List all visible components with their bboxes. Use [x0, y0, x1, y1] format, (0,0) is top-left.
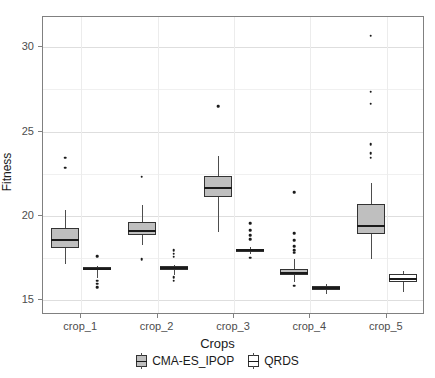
legend-key-icon — [136, 355, 147, 367]
gridline-x-crop_4 — [310, 17, 311, 313]
outlier-point — [293, 245, 296, 248]
legend-item-QRDS[interactable]: QRDS — [248, 354, 299, 368]
gridline-x-crop_5 — [387, 17, 388, 313]
x-axis-label: Crops — [0, 336, 435, 351]
x-tick-mark-crop_2 — [157, 314, 158, 318]
outlier-point — [96, 286, 99, 289]
legend-item-CMA-ES_IPOP[interactable]: CMA-ES_IPOP — [136, 354, 234, 368]
outlier-point — [96, 255, 99, 258]
outlier-point — [249, 222, 252, 225]
gridline-y-30 — [43, 47, 423, 48]
outlier-point — [249, 229, 252, 232]
outlier-point — [249, 238, 252, 241]
outlier-point — [172, 252, 175, 255]
legend-label: CMA-ES_IPOP — [152, 354, 234, 368]
outlier-point — [249, 234, 252, 237]
outlier-point — [172, 249, 175, 252]
y-tick-label-30: 30 — [8, 40, 34, 52]
outlier-point — [370, 152, 373, 155]
x-tick-label-crop_5: crop_5 — [369, 320, 403, 332]
box-median — [280, 272, 308, 274]
outlier-point — [64, 156, 67, 159]
outlier-point — [293, 232, 296, 235]
x-tick-mark-crop_1 — [80, 314, 81, 318]
box-median — [236, 249, 264, 251]
x-tick-label-crop_1: crop_1 — [63, 320, 97, 332]
y-tick-mark-30 — [38, 46, 42, 47]
box-median — [128, 230, 156, 232]
gridline-y-minor — [43, 174, 423, 175]
outlier-point — [370, 143, 373, 146]
plot-panel — [42, 16, 424, 314]
box-CMA-ES_IPOP-crop_5 — [357, 204, 385, 234]
outlier-point — [96, 279, 99, 282]
box-median — [389, 278, 417, 280]
box-CMA-ES_IPOP-crop_2 — [128, 222, 156, 235]
box-median — [160, 267, 188, 269]
x-tick-label-crop_3: crop_3 — [216, 320, 250, 332]
gridline-y-15 — [43, 300, 423, 301]
outlier-point — [293, 251, 296, 254]
x-tick-mark-crop_5 — [386, 314, 387, 318]
chart-root: 15202530crop_1crop_2crop_3crop_4crop_5 F… — [0, 0, 435, 378]
outlier-point — [370, 34, 373, 37]
outlier-point — [140, 258, 143, 261]
outlier-point — [249, 257, 252, 260]
box-median — [204, 187, 232, 189]
box-median — [357, 225, 385, 227]
gridline-y-25 — [43, 132, 423, 133]
y-tick-label-25: 25 — [8, 125, 34, 137]
x-tick-label-crop_4: crop_4 — [293, 320, 327, 332]
x-tick-label-crop_2: crop_2 — [140, 320, 174, 332]
outlier-point — [217, 105, 220, 108]
outlier-point — [293, 284, 296, 287]
legend-label: QRDS — [264, 354, 299, 368]
box-median — [312, 287, 340, 289]
y-tick-mark-20 — [38, 215, 42, 216]
outlier-point — [370, 91, 373, 94]
y-tick-label-20: 20 — [8, 209, 34, 221]
outlier-point — [140, 176, 143, 179]
outlier-point — [172, 279, 175, 282]
outlier-point — [172, 256, 175, 259]
box-median — [51, 239, 79, 241]
y-tick-mark-25 — [38, 131, 42, 132]
x-tick-mark-crop_3 — [233, 314, 234, 318]
x-tick-mark-crop_4 — [309, 314, 310, 318]
outlier-point — [293, 191, 296, 194]
y-tick-label-15: 15 — [8, 293, 34, 305]
gridline-x-crop_3 — [234, 17, 235, 313]
outlier-point — [64, 166, 67, 169]
gridline-y-minor — [43, 89, 423, 90]
outlier-point — [293, 239, 296, 242]
chart-legend: CMA-ES_IPOPQRDS — [0, 354, 435, 368]
y-tick-mark-15 — [38, 299, 42, 300]
outlier-point — [370, 156, 373, 159]
gridline-x-crop_1 — [81, 17, 82, 313]
outlier-point — [96, 283, 99, 286]
outlier-point — [172, 276, 175, 279]
gridline-x-crop_2 — [158, 17, 159, 313]
legend-key-icon — [248, 355, 259, 367]
gridline-y-minor — [43, 258, 423, 259]
outlier-point — [370, 102, 373, 105]
y-axis-label: Fitness — [0, 153, 14, 192]
box-median — [83, 268, 111, 270]
